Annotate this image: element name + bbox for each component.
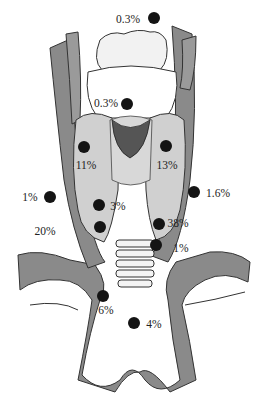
hyoid-bone [96, 30, 167, 70]
anatomy-diagram: 0.3% 0.3% 11% 13% 1% 1.6% 3% 20% 38% 1% … [0, 0, 264, 398]
marker-dot-5 [44, 191, 56, 203]
marker-dot-11 [97, 290, 109, 302]
trachea [116, 240, 154, 287]
marker-label-4: 13% [156, 160, 177, 172]
marker-label-7: 3% [110, 201, 125, 213]
marker-dot-7 [93, 199, 105, 211]
marker-label-2: 0.3% [94, 98, 118, 110]
marker-label-9: 38% [167, 218, 188, 230]
marker-dot-12 [128, 317, 140, 329]
marker-dot-1 [148, 12, 160, 24]
marker-label-12: 4% [146, 319, 161, 331]
marker-label-8: 20% [34, 226, 55, 238]
marker-dot-9 [153, 218, 165, 230]
marker-label-5: 1% [22, 192, 37, 204]
right-nerve [185, 292, 245, 305]
left-nerve [30, 303, 78, 310]
marker-dot-8 [94, 221, 106, 233]
marker-dot-4 [160, 140, 172, 152]
marker-dot-2 [121, 98, 133, 110]
marker-dot-3 [78, 141, 90, 153]
marker-label-10: 1% [173, 243, 188, 255]
marker-dot-6 [188, 186, 200, 198]
marker-label-11: 6% [98, 305, 113, 317]
marker-label-1: 0.3% [116, 14, 140, 26]
marker-label-3: 11% [76, 160, 97, 172]
marker-label-6: 1.6% [206, 188, 230, 200]
larynx [87, 66, 177, 118]
marker-dot-10 [150, 239, 162, 251]
